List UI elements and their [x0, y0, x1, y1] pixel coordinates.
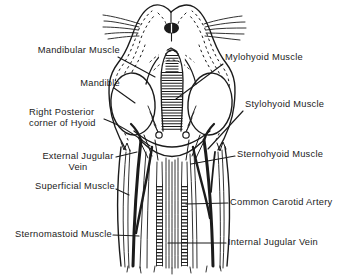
- mylohyoid-band: [158, 49, 186, 131]
- label-mandible: Mandible: [40, 78, 120, 89]
- label-internal-jugular-vein: Internal Jugular Vein: [228, 237, 336, 248]
- label-superficial-muscle: Superficial Muscle: [34, 181, 115, 192]
- label-external-jugular-vein: External Jugular Vein: [40, 151, 116, 173]
- label-stylohyoid-muscle: Stylohyoid Muscle: [245, 99, 345, 110]
- nose-icon: [164, 23, 179, 42]
- label-common-carotid-artery: Common Carotid Artery: [230, 197, 345, 208]
- label-sternomastoid-muscle: Sternomastoid Muscle: [6, 229, 112, 240]
- label-mandibular-muscle: Mandibular Muscle: [24, 45, 120, 56]
- label-right-posterior-corner-of-hyoid: Right Posterior corner of Hyoid: [29, 107, 109, 129]
- anatomy-diagram: Mandibular Muscle Mylohyoid Muscle Mandi…: [0, 0, 347, 278]
- label-mylohyoid-muscle: Mylohyoid Muscle: [225, 52, 335, 63]
- label-sternohyoid-muscle: Sternohyoid Muscle: [237, 149, 342, 160]
